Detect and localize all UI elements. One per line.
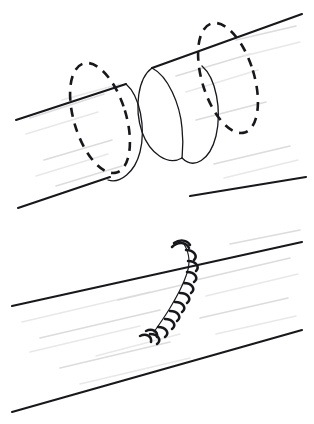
right-cut-face-left-rim	[138, 68, 182, 160]
right-segment-bottom-wall	[190, 177, 306, 196]
right-cut-face-lumen	[152, 68, 183, 158]
texture-line	[224, 160, 298, 178]
texture-group-right-segment	[176, 26, 300, 178]
texture-line	[200, 298, 288, 318]
texture-line	[216, 316, 296, 334]
suture-stitch	[158, 327, 167, 337]
texture-line	[44, 140, 112, 160]
texture-line	[60, 342, 170, 368]
suture-stitch-group	[150, 250, 198, 344]
texture-group-left-segment	[26, 84, 122, 186]
right-segment-inner-ellipse	[182, 66, 218, 163]
left-segment-bottom-wall	[18, 177, 110, 208]
suture-stitch	[175, 302, 184, 312]
texture-line	[236, 26, 296, 40]
repaired-tube-bottom-wall	[12, 330, 302, 412]
panel-sutured	[12, 230, 302, 412]
suture-stitch	[165, 319, 174, 329]
suture-stitch	[180, 293, 189, 303]
texture-line	[230, 230, 300, 244]
texture-line	[196, 102, 266, 120]
figure-canvas	[0, 0, 314, 424]
anastomosis-figure	[0, 0, 314, 424]
texture-line	[80, 358, 190, 384]
texture-group-repaired-tube	[22, 230, 300, 384]
texture-line	[30, 94, 104, 118]
suture-stitch	[187, 272, 196, 282]
texture-line	[186, 70, 258, 92]
texture-line	[96, 334, 180, 356]
texture-line	[214, 146, 290, 164]
panel-transected	[16, 14, 306, 208]
repaired-tube-top-wall	[12, 242, 302, 306]
suture-tail-loop-secondary	[140, 335, 151, 342]
right-tube-segment	[138, 14, 306, 196]
texture-line	[244, 42, 300, 56]
left-cut-hidden-circumference	[58, 56, 141, 180]
right-segment-top-wall	[152, 14, 302, 68]
texture-line	[206, 274, 298, 296]
texture-line	[176, 54, 250, 76]
